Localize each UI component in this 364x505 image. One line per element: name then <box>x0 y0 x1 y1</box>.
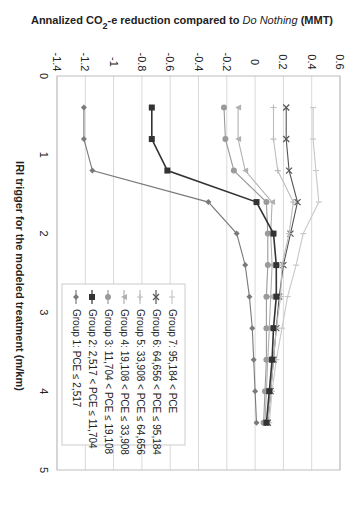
x-tick-label: 0 <box>38 73 50 79</box>
y-tick-label: -0.6 <box>164 53 176 72</box>
y-tick-label: 0.2 <box>277 54 289 69</box>
legend-item: Group 6: 64,656 < PCE ≤ 95,184 <box>151 290 162 455</box>
legend: Group 7: 95,184 < PCEGroup 6: 64,656 < P… <box>62 284 185 455</box>
x-axis-title: IRI trigger for the modeled treatment (m… <box>14 161 26 391</box>
legend-item: Group 3: 11,704 < PCE ≤ 19,108 <box>103 290 114 455</box>
legend-label: Group 2: 2,517 < PCE ≤ 11,704 <box>87 309 98 449</box>
rotated-line-chart: -1.4-1.2-1-0.8-0.6-0.4-0.200.20.40.60123… <box>0 0 364 505</box>
chart-canvas: -1.4-1.2-1-0.8-0.6-0.4-0.200.20.40.60123… <box>0 0 364 505</box>
legend-label: Group 6: 64,656 < PCE ≤ 95,184 <box>151 309 162 455</box>
y-axis-title: Annalized CO2-e reduction compared to Do… <box>31 14 333 31</box>
legend-label: Group 7: 95,184 < PCE <box>167 309 178 414</box>
y-tick-label: 0 <box>249 59 261 65</box>
legend-item: Group 7: 95,184 < PCE <box>167 290 178 414</box>
y-tick-label: -1.4 <box>51 53 63 72</box>
legend-label: Group 3: 11,704 < PCE ≤ 19,108 <box>103 309 114 455</box>
y-tick-label: -0.4 <box>193 53 205 72</box>
x-tick-label: 5 <box>38 467 50 473</box>
x-tick-label: 4 <box>38 388 50 394</box>
y-tick-label: 0.6 <box>334 54 346 69</box>
y-tick-label: 0.4 <box>306 54 318 69</box>
legend-label: Group 1: PCE ≤ 2,517 <box>71 309 82 408</box>
legend-label: Group 5: 33,908 < PCE ≤ 64,656 <box>135 309 146 455</box>
x-tick-label: 1 <box>38 152 50 158</box>
legend-item: Group 2: 2,517 < PCE ≤ 11,704 <box>87 290 98 449</box>
y-tick-label: -1.2 <box>79 53 91 72</box>
legend-label: Group 4: 19,108 < PCE ≤ 33,908 <box>119 309 130 455</box>
x-tick-label: 3 <box>38 309 50 315</box>
x-tick-label: 2 <box>38 231 50 237</box>
y-tick-label: -0.2 <box>221 53 233 72</box>
legend-item: Group 4: 19,108 < PCE ≤ 33,908 <box>119 290 130 455</box>
legend-item: Group 5: 33,908 < PCE ≤ 64,656 <box>135 290 146 455</box>
y-tick-label: -0.8 <box>136 53 148 72</box>
y-tick-label: -1 <box>108 57 120 67</box>
